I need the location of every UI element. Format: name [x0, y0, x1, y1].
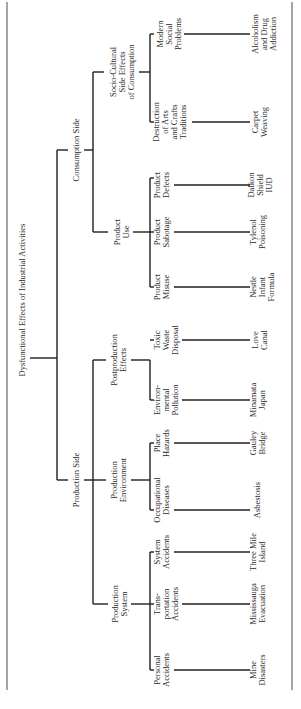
root-node: Dysfunctional Effects of Industrial Acti… — [17, 224, 27, 377]
occupational-line-2: Diseases — [161, 485, 171, 515]
asbestosis-line-1: Asbestosis — [252, 482, 262, 518]
product-use-node: Product Use — [112, 218, 131, 245]
modern-line-3: Problems — [173, 18, 183, 50]
socio-cultural-node: Socio-Cultural Side Effects of Consumpti… — [108, 44, 136, 100]
carpet-line-2: Weaving — [259, 106, 269, 137]
env-pollution-line-3: Pollution — [170, 384, 180, 416]
postproduction-line-2: Effects — [118, 348, 128, 372]
environmental-pollution-node: Environ- mental Pollution — [152, 384, 180, 416]
product-use-line-2: Use — [121, 225, 131, 238]
toxic-waste-node: Toxic Waste Disposal — [152, 324, 180, 354]
tylenol-line-2: Poisoning — [257, 214, 267, 249]
diagram-canvas: Dysfunctional Effects of Industrial Acti… — [0, 0, 301, 709]
root-label: Dysfunctional Effects of Industrial Acti… — [17, 224, 27, 377]
consumption-side-label: Consumption Side — [71, 118, 81, 181]
example-tylenol: Tylenol Poisoning — [248, 214, 267, 249]
production-system-node: Production System — [110, 585, 129, 623]
example-love-canal: Love Canal — [250, 329, 269, 349]
tree-diagram: Dysfunctional Effects of Industrial Acti… — [0, 0, 301, 709]
example-mississauga: Mississauga Evacuation — [248, 583, 267, 625]
product-defects-node: Product Defects — [152, 171, 171, 198]
example-gauley-bridge: Gauley Bridge — [248, 430, 267, 455]
destruction-arts-node: Destruction of Arts and Crafts Tradition… — [151, 101, 188, 141]
mine-line-2: Disasters — [257, 654, 267, 685]
dalkon-line-3: IUD — [264, 177, 274, 192]
prod-system-line-2: System — [119, 591, 129, 616]
socio-cultural-line-3: of Consumption — [126, 44, 136, 100]
example-minamata: Minamata Japan — [248, 383, 267, 418]
toxic-line-3: Disposal — [170, 324, 180, 354]
modern-social-problems-node: Modern Social Problems — [155, 18, 183, 50]
mississauga-line-2: Evacuation — [257, 584, 267, 623]
production-environment-node: Production Environment — [109, 457, 128, 502]
minamata-line-2: Japan — [257, 390, 267, 410]
example-dalkon-shield: Dalkon Shield IUD — [246, 172, 274, 198]
example-three-mile-island: Three Mile Island — [248, 533, 267, 571]
personal-line-2: Accidents — [161, 653, 171, 687]
occupational-diseases-node: Occupational Diseases — [152, 477, 171, 523]
postproduction-node: Postproduction Effects — [109, 334, 128, 386]
system-acc-line-2: Accidents — [161, 535, 171, 569]
misuse-line-2: Misuse — [161, 274, 171, 299]
system-accidents-node: System Accidents — [152, 535, 171, 569]
nestle-line-3: Formula — [266, 272, 276, 301]
example-nestle: Nestle Infant Formula — [248, 272, 276, 301]
example-mine-disasters: Mine Disasters — [248, 654, 267, 685]
example-carpet-weaving: Carpet Weaving — [250, 106, 269, 137]
prod-env-line-2: Environment — [118, 457, 128, 502]
place-line-2: Hazards — [161, 429, 171, 457]
place-hazards-node: Place Hazards — [152, 429, 171, 457]
gauley-line-2: Bridge — [257, 431, 267, 454]
production-side-label: Production Side — [71, 453, 81, 508]
product-misuse-node: Product Misuse — [152, 273, 171, 300]
defects-line-2: Defects — [161, 172, 171, 198]
personal-accidents-node: Personal Accidents — [152, 653, 171, 687]
product-sabotage-node: Product Sabotage — [152, 216, 171, 247]
love-canal-line-2: Canal — [259, 329, 269, 349]
sabotage-line-2: Sabotage — [161, 216, 171, 247]
destruction-line-4: Traditions — [178, 105, 188, 140]
example-asbestosis: Asbestosis — [252, 482, 262, 518]
transport-line-3: Accidents — [170, 587, 180, 621]
tmi-line-2: Island — [257, 541, 267, 563]
transportation-accidents-node: Trans- portation Accidents — [152, 587, 180, 621]
example-alcoholism: Alcoholism and Drug Addiction — [250, 14, 278, 54]
alcoholism-line-3: Addiction — [268, 16, 278, 51]
